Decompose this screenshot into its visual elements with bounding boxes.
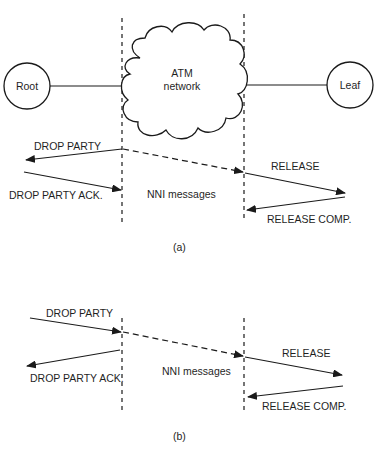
cloud-label-line2: network: [160, 81, 204, 92]
drop-party-ack-arrow-b: [27, 350, 120, 366]
release-comp-arrow-b: [248, 386, 343, 397]
root-label: Root: [5, 81, 49, 92]
release-label-b: RELEASE: [282, 348, 330, 359]
drop-party-label-b: DROP PARTY: [46, 308, 113, 319]
nni-dashed-arrow-b: [123, 332, 243, 356]
release-comp-label-a: RELEASE COMP.: [267, 214, 351, 225]
drop-party-ack-label-b: DROP PARTY ACK.: [30, 373, 124, 384]
caption-b: (b): [173, 431, 186, 442]
nni-messages-label-b: NNI messages: [162, 366, 231, 377]
drop-party-label-a: DROP PARTY: [34, 141, 101, 152]
release-arrow-b: [245, 357, 342, 375]
release-arrow-a: [245, 173, 345, 193]
cloud-label-line1: ATM: [160, 68, 204, 79]
drop-party-arrow-b: [30, 318, 121, 332]
release-label-a: RELEASE: [271, 161, 319, 172]
caption-a: (a): [173, 242, 186, 253]
release-comp-label-b: RELEASE COMP.: [262, 401, 346, 412]
nni-dashed-arrow-a: [123, 149, 243, 172]
drop-party-ack-arrow-a: [24, 172, 121, 190]
leaf-label: Leaf: [328, 80, 372, 91]
drop-party-ack-label-a: DROP PARTY ACK.: [9, 190, 103, 201]
nni-messages-label-a: NNI messages: [147, 189, 216, 200]
release-comp-arrow-a: [247, 197, 345, 210]
